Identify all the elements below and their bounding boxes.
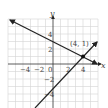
y-axis-label: y: [49, 9, 55, 18]
x-tick-label: 4: [81, 66, 86, 74]
x-tick-label: −4: [20, 66, 31, 74]
intersection-label: (4, 1): [70, 40, 89, 48]
intersection-point: [81, 55, 85, 59]
y-tick-label: 2: [48, 46, 52, 54]
coordinate-plane: x y −4 −2 0 2 4 4 2 −2 −4 (4, 1): [0, 0, 108, 108]
y-tick-label: 4: [48, 31, 53, 39]
y-tick-label: −2: [44, 76, 54, 84]
graph-figure: x y −4 −2 0 2 4 4 2 −2 −4 (4, 1): [0, 0, 108, 108]
x-axis-label: x: [101, 61, 106, 70]
x-tick-label: −2: [34, 66, 44, 74]
x-tick-label: 0: [48, 66, 52, 74]
line-2: [35, 42, 97, 108]
